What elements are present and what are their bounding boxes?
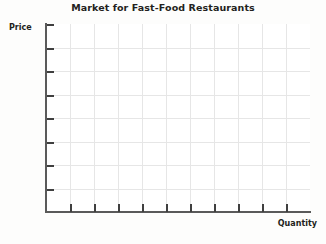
y-axis-tick (47, 71, 54, 73)
x-axis-tick (286, 204, 288, 212)
grid-line-horizontal (46, 165, 310, 166)
grid-line-horizontal (46, 48, 310, 49)
chart-title: Market for Fast-Food Restaurants (0, 2, 326, 13)
x-axis-tick (94, 204, 96, 212)
y-axis-tick (47, 95, 54, 97)
chart-figure: Market for Fast-Food Restaurants Price Q… (0, 0, 326, 244)
grid-line-horizontal (46, 142, 310, 143)
y-axis-tick (47, 142, 54, 144)
y-axis-tick (47, 165, 54, 167)
plot-area (46, 24, 310, 212)
x-axis-tick (142, 204, 144, 212)
x-axis-tick (238, 204, 240, 212)
x-axis-tick (70, 204, 72, 212)
x-axis-tick (262, 204, 264, 212)
y-axis-label: Price (9, 23, 32, 32)
x-axis-label: Quantity (278, 219, 317, 228)
x-axis-tick (118, 204, 120, 212)
grid-line-horizontal (46, 95, 310, 96)
x-axis-line (45, 211, 311, 213)
x-axis-tick (166, 204, 168, 212)
grid-line-horizontal (46, 189, 310, 190)
y-axis-tick (47, 24, 54, 26)
x-axis-tick (190, 204, 192, 212)
y-axis-tick (47, 48, 54, 50)
x-axis-tick (214, 204, 216, 212)
y-axis-tick (47, 189, 54, 191)
grid-line-horizontal (46, 71, 310, 72)
grid-line-horizontal (46, 118, 310, 119)
y-axis-tick (47, 118, 54, 120)
